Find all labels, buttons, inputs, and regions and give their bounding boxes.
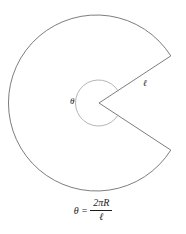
formula-caption: θ = 2πR ℓ [0,198,186,222]
theta-label: θ [70,97,74,106]
formula-denominator: ℓ [98,211,104,223]
theta-angle-arc [75,80,118,126]
formula-fraction: 2πR ℓ [90,198,112,222]
formula-equals: = [82,205,88,216]
figure-canvas: θ ℓ θ = 2πR ℓ [0,0,186,234]
formula-numerator: 2πR [92,198,110,210]
pacman-outline-path [8,15,170,191]
ell-length-label: ℓ [143,79,147,88]
formula-theta: θ [74,205,79,216]
